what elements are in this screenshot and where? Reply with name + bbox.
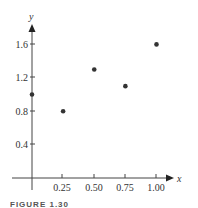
x-axis-label: x [176,173,182,184]
data-point [61,109,66,114]
x-tick-label: 0.25 [53,182,71,193]
y-tick-label: 1.6 [16,39,29,50]
x-tick-label: 0.75 [116,182,134,193]
y-axis-arrow-icon [29,24,36,32]
x-axis-arrow-icon [166,175,174,182]
x-tick-label: 0.50 [85,182,103,193]
y-tick-label: 1.2 [16,72,29,83]
x-tick-label: 1.00 [147,182,165,193]
data-point [92,67,97,72]
y-axis-label: y [28,11,34,22]
y-tick-label: 0.4 [16,139,29,150]
scatter-chart: x y 0.25 0.50 0.75 1.00 0.4 0.8 1.2 1.6 [0,0,198,208]
data-point [123,84,128,89]
data-point [154,42,159,47]
y-tick-label: 0.8 [16,106,29,117]
data-point [30,92,35,97]
figure-caption: FIGURE 1.30 [10,201,69,208]
data-points [30,42,159,113]
x-ticks: 0.25 0.50 0.75 1.00 [53,174,165,193]
